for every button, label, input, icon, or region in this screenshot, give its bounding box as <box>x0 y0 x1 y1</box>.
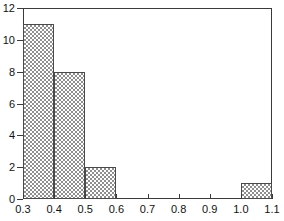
x-axis-tick-mark <box>179 194 180 199</box>
y-axis-tick-mark <box>17 72 23 73</box>
y-axis-tick-mark <box>17 135 23 136</box>
histogram-chart: 024681012 0.30.40.50.60.70.80.91.01.1 <box>0 0 284 221</box>
x-axis-tick-label: 1.1 <box>264 203 279 215</box>
y-axis-tick-label: 8 <box>9 67 15 78</box>
x-axis-tick-mark <box>272 194 273 199</box>
y-axis-tick-label: 12 <box>3 3 15 14</box>
x-axis-tick-mark <box>23 194 24 199</box>
x-axis-tick-label: 1.0 <box>233 203 248 215</box>
x-axis-tick-label: 0.8 <box>171 203 186 215</box>
x-axis-tick-mark <box>210 194 211 199</box>
x-axis-tick-label: 0.6 <box>109 203 124 215</box>
x-axis-tick-mark <box>85 194 86 199</box>
histogram-bar <box>54 72 85 199</box>
x-axis-tick-mark <box>54 194 55 199</box>
y-axis-tick-label: 4 <box>9 130 15 141</box>
y-axis-tick-label: 0 <box>9 194 15 205</box>
x-axis-tick-mark <box>116 194 117 199</box>
y-axis-tick-mark <box>17 104 23 105</box>
histogram-bar <box>23 24 54 199</box>
x-axis-tick-mark <box>148 194 149 199</box>
y-axis-tick-mark <box>17 167 23 168</box>
x-axis-tick-label: 0.3 <box>15 203 30 215</box>
y-axis-tick-label: 6 <box>9 99 15 110</box>
plot-area <box>23 8 272 199</box>
y-axis-tick-label: 2 <box>9 162 15 173</box>
histogram-bar <box>85 167 116 199</box>
x-axis-tick-mark <box>241 194 242 199</box>
x-axis-tick-label: 0.7 <box>140 203 155 215</box>
y-axis-tick-mark <box>17 8 23 9</box>
x-axis-tick-label: 0.5 <box>78 203 93 215</box>
x-axis-tick-label: 0.9 <box>202 203 217 215</box>
y-axis-tick-mark <box>17 199 23 200</box>
histogram-bar <box>241 183 272 199</box>
y-axis-tick-label: 10 <box>3 35 15 46</box>
x-axis-tick-label: 0.4 <box>46 203 61 215</box>
y-axis-tick-mark <box>17 40 23 41</box>
